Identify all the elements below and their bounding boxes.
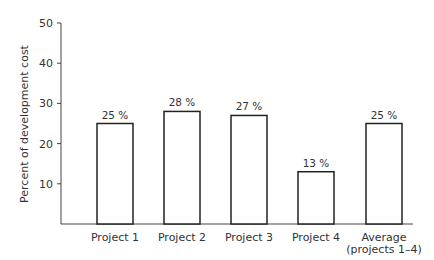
x-tick-label: Project 2: [158, 231, 206, 244]
bars: 25 %28 %27 %13 %25 %: [97, 96, 402, 224]
y-tick-label: 10: [39, 178, 53, 191]
bar: [298, 172, 334, 224]
y-tick-label: 40: [39, 57, 53, 70]
x-tick-label: Project 3: [225, 231, 273, 244]
x-tick-label: Project 1: [91, 231, 139, 244]
bar-value-label: 25 %: [102, 109, 129, 121]
bar-value-label: 25 %: [371, 109, 398, 121]
y-axis: 1020304050: [39, 17, 413, 224]
bar-value-label: 28 %: [169, 96, 196, 108]
x-tick-label: (projects 1–4): [346, 243, 422, 256]
y-tick-label: 20: [39, 138, 53, 151]
x-tick-label: Project 4: [292, 231, 340, 244]
bar-chart: 1020304050 25 %28 %27 %13 %25 % Project …: [0, 0, 434, 260]
bar: [231, 115, 267, 224]
bar-value-label: 27 %: [236, 100, 263, 112]
bar: [97, 124, 133, 225]
bar: [366, 124, 402, 225]
x-axis-labels: Project 1Project 2Project 3Project 4Aver…: [91, 231, 422, 256]
y-tick-label: 30: [39, 97, 53, 110]
bar-value-label: 13 %: [303, 157, 330, 169]
y-axis-label: Percent of development cost: [18, 44, 31, 203]
bar: [164, 111, 200, 224]
y-tick-label: 50: [39, 17, 53, 30]
